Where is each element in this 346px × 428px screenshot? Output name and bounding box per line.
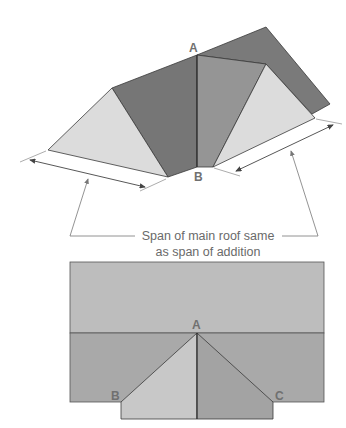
- right-extension-line-2: [316, 119, 342, 124]
- roof-diagram: A B Span of main roof same as span of ad…: [0, 0, 346, 428]
- callout-leader-right: [282, 151, 318, 236]
- callout-line-1: Span of main roof same: [142, 229, 275, 243]
- point-label-b-plan: B: [111, 389, 120, 403]
- callout-leader-left: [70, 179, 135, 236]
- callout-line-2: as span of addition: [156, 245, 261, 259]
- perspective-view: A B: [20, 27, 342, 191]
- point-label-a-top: A: [189, 41, 198, 55]
- point-label-c-plan: C: [275, 389, 284, 403]
- left-extension-line-2: [140, 179, 166, 191]
- right-extension-line-1: [214, 168, 240, 176]
- plan-view: A B C: [70, 262, 324, 419]
- point-label-b-top: B: [194, 170, 203, 184]
- point-label-a-plan: A: [192, 318, 201, 332]
